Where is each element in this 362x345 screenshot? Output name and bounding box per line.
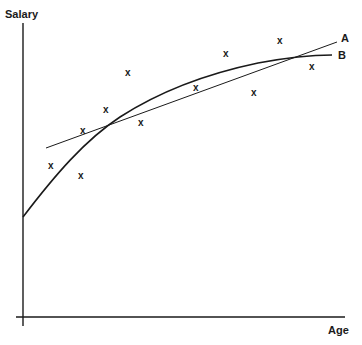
data-point-x-mark: x	[80, 125, 86, 136]
data-point-x-mark: x	[251, 87, 257, 98]
data-point-x-mark: x	[103, 104, 109, 115]
data-point-x-mark: x	[125, 67, 131, 78]
fit-curve-b	[23, 55, 332, 217]
curve-b-label: B	[338, 49, 346, 61]
x-axis-label: Age	[328, 324, 349, 336]
data-point-x-mark: x	[277, 35, 283, 46]
data-point-x-mark: x	[138, 117, 144, 128]
data-point-x-mark: x	[193, 82, 199, 93]
data-points: x x x x x x x x x x x	[48, 35, 315, 181]
line-a-label: A	[341, 32, 349, 44]
data-point-x-mark: x	[78, 170, 84, 181]
data-point-x-mark: x	[48, 160, 54, 171]
data-point-x-mark: x	[223, 48, 229, 59]
data-point-x-mark: x	[309, 61, 315, 72]
scatter-diagram: Salary Age A B x x x x x x x x x x x	[0, 0, 362, 345]
y-axis-label: Salary	[5, 8, 39, 20]
